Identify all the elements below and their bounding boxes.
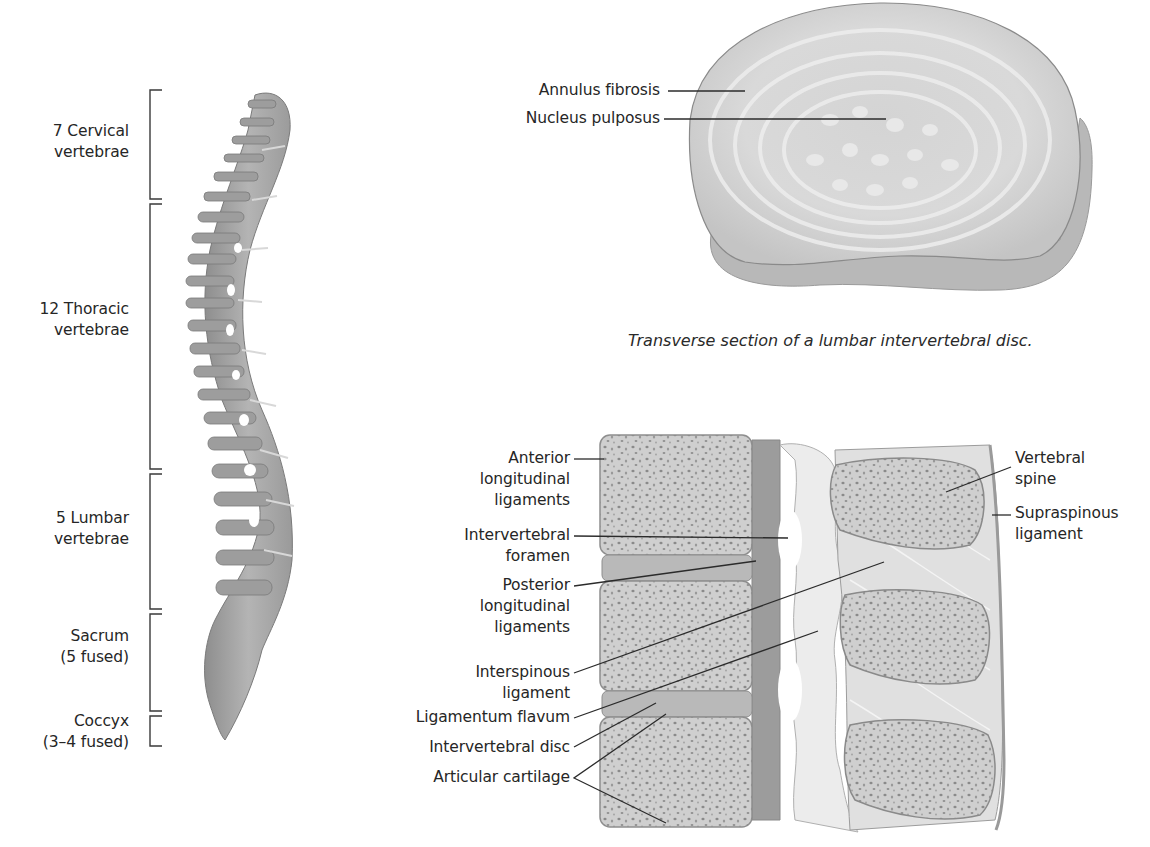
label-line: Intervertebral [464,525,570,546]
label-line: Interspinous [475,662,570,683]
label-line: Coccyx [43,711,129,732]
label-anterior-longitudinal-ligaments: Anterior longitudinal ligaments [480,448,570,511]
label-line: longitudinal [480,469,570,490]
label-nucleus-pulposus: Nucleus pulposus [526,108,660,129]
disc-caption: Transverse section of a lumbar intervert… [628,331,1033,350]
label-line: foramen [464,546,570,567]
label-line: 12 Thoracic [39,299,129,320]
label-line: ligaments [480,490,570,511]
label-line: ligaments [480,617,570,638]
label-intervertebral-disc: Intervertebral disc [429,737,570,758]
label-thoracic: 12 Thoracic vertebrae [39,299,129,341]
label-line: Anterior [480,448,570,469]
label-line: Supraspinous [1015,503,1119,524]
label-sacrum: Sacrum (5 fused) [60,626,129,668]
label-line: Vertebral [1015,448,1085,469]
label-posterior-longitudinal-ligaments: Posterior longitudinal ligaments [480,575,570,638]
label-lumbar: 5 Lumbar vertebrae [54,508,129,550]
label-line: 7 Cervical [53,121,129,142]
label-intervertebral-foramen: Intervertebral foramen [464,525,570,567]
label-line: ligament [475,683,570,704]
label-vertebral-spine: Vertebral spine [1015,448,1085,490]
label-annulus-fibrosis: Annulus fibrosis [539,80,660,101]
sagittal-section [574,435,1011,832]
label-interspinous-ligament: Interspinous ligament [475,662,570,704]
label-cervical: 7 Cervical vertebrae [53,121,129,163]
label-articular-cartilage: Articular cartilage [433,767,570,788]
label-line: Posterior [480,575,570,596]
label-line: 5 Lumbar [54,508,129,529]
label-line: vertebrae [39,320,129,341]
region-brackets [150,90,162,746]
label-supraspinous-ligament: Supraspinous ligament [1015,503,1119,545]
label-line: Sacrum [60,626,129,647]
label-line: spine [1015,469,1085,490]
label-coccyx: Coccyx (3–4 fused) [43,711,129,753]
disc-cross-section [664,3,1092,290]
label-line: vertebrae [54,529,129,550]
label-line: (3–4 fused) [43,732,129,753]
spine-column [186,93,294,740]
label-ligamentum-flavum: Ligamentum flavum [416,707,570,728]
label-line: ligament [1015,524,1119,545]
label-line: (5 fused) [60,647,129,668]
label-line: longitudinal [480,596,570,617]
label-line: vertebrae [53,142,129,163]
